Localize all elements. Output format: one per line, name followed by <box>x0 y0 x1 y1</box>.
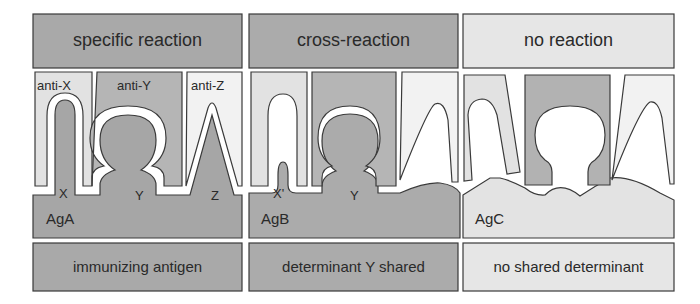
determinant-y-shared: Y <box>350 188 359 203</box>
antibody-cross-anti-z <box>400 72 458 182</box>
label-anti-x: anti-X <box>37 78 71 93</box>
determinant-x-prime: X' <box>273 186 284 201</box>
antigen-label-aga: AgA <box>46 210 74 227</box>
antibody-none-anti-y <box>525 75 610 185</box>
determinant-z: Z <box>211 188 219 203</box>
footer-immunizing-antigen: immunizing antigen <box>33 258 242 275</box>
antigen-agc <box>463 178 674 238</box>
header-cross-reaction: cross-reaction <box>249 30 458 51</box>
antigen-label-agb: AgB <box>261 210 289 227</box>
footer-determinant-y-shared: determinant Y shared <box>249 258 458 275</box>
determinant-y: Y <box>135 188 144 203</box>
footer-no-shared-determinant: no shared determinant <box>463 258 674 275</box>
antibody-none-anti-z <box>612 75 674 184</box>
header-no-reaction: no reaction <box>463 30 674 51</box>
label-anti-z: anti-Z <box>191 78 224 93</box>
label-anti-y: anti-Y <box>117 78 151 93</box>
determinant-x: X <box>59 186 68 201</box>
antigen-label-agc: AgC <box>475 210 504 227</box>
header-specific-reaction: specific reaction <box>33 30 242 51</box>
antibody-none-anti-x <box>464 75 520 181</box>
